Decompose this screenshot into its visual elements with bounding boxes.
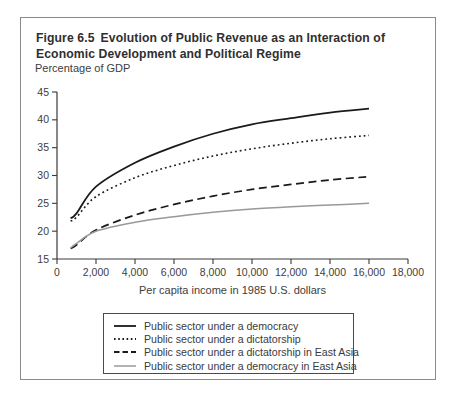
- x-tick-label: 10,000: [236, 266, 268, 278]
- x-tick-label: 4,000: [122, 266, 148, 278]
- figure-title: Figure 6.5Evolution of Public Revenue as…: [36, 30, 420, 62]
- y-tick-label: 40: [37, 113, 49, 125]
- legend-label: Public sector under a democracy in East …: [144, 360, 357, 372]
- x-tick-label: 12,000: [275, 266, 307, 278]
- x-tick-label: 0: [54, 266, 60, 278]
- y-tick-label: 35: [37, 141, 49, 153]
- y-tick-label: 25: [37, 197, 49, 209]
- legend-label: Public sector under a dictatorship in Ea…: [144, 346, 359, 358]
- legend: Public sector under a democracyPublic se…: [103, 313, 354, 374]
- y-tick-label: 20: [37, 225, 49, 237]
- series-curve: [71, 203, 369, 248]
- y-tick-label: 30: [37, 169, 49, 181]
- chart-plot: 1520253035404502,0004,0006,0008,00010,00…: [21, 73, 439, 313]
- series-curve: [71, 135, 369, 221]
- y-tick-label: 45: [37, 86, 49, 98]
- x-tick-label: 16,000: [353, 266, 385, 278]
- legend-item: Public sector under a dictatorship: [113, 332, 345, 345]
- series-curve: [71, 109, 369, 219]
- legend-item: Public sector under a democracy: [113, 319, 345, 332]
- legend-line-sample: [113, 321, 137, 331]
- figure-frame: Figure 6.5Evolution of Public Revenue as…: [20, 17, 436, 380]
- x-tick-label: 2,000: [83, 266, 109, 278]
- legend-line-sample: [113, 361, 137, 371]
- x-axis-title: Per capita income in 1985 U.S. dollars: [139, 284, 327, 296]
- x-tick-label: 18,000: [392, 266, 424, 278]
- y-tick-label: 15: [37, 253, 49, 265]
- x-tick-label: 8,000: [200, 266, 226, 278]
- x-tick-label: 6,000: [161, 266, 187, 278]
- legend-item: Public sector under a dictatorship in Ea…: [113, 346, 345, 359]
- legend-line-sample: [113, 347, 137, 357]
- x-tick-label: 14,000: [314, 266, 346, 278]
- legend-label: Public sector under a democracy: [144, 320, 298, 332]
- legend-line-sample: [113, 334, 137, 344]
- legend-label: Public sector under a dictatorship: [144, 333, 301, 345]
- legend-item: Public sector under a democracy in East …: [113, 359, 345, 372]
- series-curve: [71, 177, 369, 249]
- figure-number: Figure 6.5: [36, 31, 95, 45]
